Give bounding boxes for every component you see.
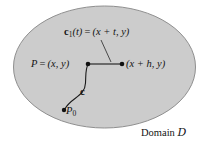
label-domain-symbol: D <box>177 126 186 139</box>
label-c1-argument: (t) <box>72 26 82 37</box>
label-domain-caption: Domain D <box>141 127 186 139</box>
label-point-p0: P0 <box>66 106 76 118</box>
label-p0-subscript: 0 <box>72 109 76 118</box>
label-c1-value: (x + t, y) <box>92 26 129 37</box>
label-p-name: P <box>31 58 37 69</box>
figure-container: c1(t) = (x + t, y) P = (x, y) (x + h, y)… <box>0 0 213 148</box>
point-p-dot <box>86 62 91 67</box>
label-domain-word: Domain <box>141 127 175 138</box>
label-c1-equals: = <box>84 26 90 37</box>
label-c1-curve: c1(t) = (x + t, y) <box>64 27 129 39</box>
label-point-right: (x + h, y) <box>126 59 165 70</box>
label-p-equals: = <box>40 58 46 69</box>
point-xh-dot <box>120 62 125 67</box>
label-point-p: P = (x, y) <box>31 59 69 70</box>
label-p-value: (x, y) <box>48 58 70 69</box>
label-curve-c: c <box>80 86 85 97</box>
